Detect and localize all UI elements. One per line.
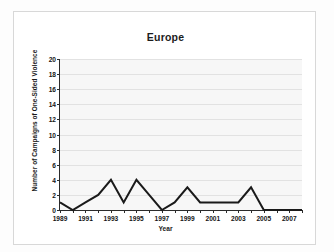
x-tick-label: 1997 <box>155 215 170 222</box>
x-tick-mark <box>226 210 227 213</box>
plot-inner: 02468101214161820 1989199119931995199719… <box>60 59 302 210</box>
x-tick-mark <box>60 210 61 213</box>
y-tick-label: 12 <box>49 116 56 123</box>
x-tick-mark <box>200 210 201 213</box>
chart-frame: Europe Number of Campaigns of One-Sided … <box>13 11 316 245</box>
chart-canvas: Europe Number of Campaigns of One-Sided … <box>0 0 334 252</box>
data-series-line <box>60 59 302 210</box>
x-tick-label: 1995 <box>129 215 144 222</box>
x-axis-title: Year <box>14 225 317 232</box>
y-tick-label: 8 <box>52 146 56 153</box>
x-tick-label: 1991 <box>78 215 93 222</box>
x-tick-mark <box>213 210 214 213</box>
chart-title: Europe <box>14 31 317 43</box>
x-tick-label: 2007 <box>282 215 297 222</box>
x-tick-mark <box>85 210 86 213</box>
x-tick-mark <box>111 210 112 213</box>
x-tick-mark <box>238 210 239 213</box>
y-tick-label: 18 <box>49 71 56 78</box>
x-tick-mark <box>124 210 125 213</box>
x-tick-mark <box>302 210 303 213</box>
x-tick-label: 2001 <box>205 215 220 222</box>
x-tick-mark <box>251 210 252 213</box>
x-tick-label: 1993 <box>104 215 119 222</box>
x-tick-mark <box>149 210 150 213</box>
x-tick-label: 2003 <box>231 215 246 222</box>
x-tick-mark <box>187 210 188 213</box>
x-tick-label: 2005 <box>256 215 271 222</box>
y-tick-label: 14 <box>49 101 56 108</box>
x-tick-label: 1989 <box>53 215 68 222</box>
y-tick-label: 20 <box>49 56 56 63</box>
y-tick-label: 4 <box>52 176 56 183</box>
plot-area: 02468101214161820 1989199119931995199719… <box>59 59 302 211</box>
y-tick-label: 16 <box>49 86 56 93</box>
y-tick-label: 0 <box>52 207 56 214</box>
y-tick-label: 10 <box>49 131 56 138</box>
x-tick-mark <box>136 210 137 213</box>
x-tick-label: 1999 <box>180 215 195 222</box>
y-tick-label: 2 <box>52 191 56 198</box>
x-tick-mark <box>175 210 176 213</box>
y-axis-title: Number of Campaigns of One-Sided Violenc… <box>31 46 38 196</box>
y-tick-label: 6 <box>52 161 56 168</box>
x-tick-mark <box>98 210 99 213</box>
